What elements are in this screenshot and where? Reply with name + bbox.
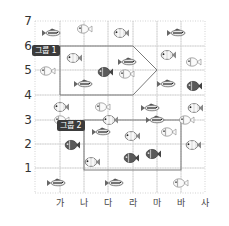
x-label-sa: 사 (197, 198, 213, 208)
y-label-4: 4 (21, 89, 35, 101)
diagram-stage: 7 6 5 4 3 2 1 가 나 다 라 마 바 사 그룹 1 그룹 2 (0, 0, 229, 226)
x-label-ga: 가 (52, 198, 68, 208)
fish-perch (92, 128, 110, 136)
x-label-ba: 바 (173, 198, 189, 208)
x-label-da: 다 (100, 198, 116, 208)
fish-clownfish-outline (120, 70, 135, 78)
fish-clownfish-outline (162, 128, 177, 136)
fish-clownfish-light (125, 132, 140, 141)
x-label-ma: 마 (149, 198, 165, 208)
group-2-tag: 그룹 2 (57, 120, 85, 131)
diagram-panel: 7 6 5 4 3 2 1 가 나 다 라 마 바 사 그룹 1 그룹 2 (0, 0, 229, 226)
fish-clownfish-outline (187, 58, 202, 66)
fish-clownfish-light (161, 51, 176, 60)
fish-perch (146, 116, 164, 124)
y-label-5: 5 (21, 64, 35, 76)
fish-perch (74, 80, 92, 88)
fish-layer (41, 25, 204, 187)
y-label-2: 2 (21, 138, 35, 150)
fish-clownfish-dark (98, 67, 113, 76)
fish-clownfish-light (103, 116, 118, 125)
x-label-na: 나 (76, 198, 92, 208)
fish-perch (141, 104, 159, 112)
fish-clownfish-outline (78, 25, 93, 33)
fish-clownfish-dark (124, 153, 139, 162)
fish-clownfish-dark (65, 140, 80, 149)
fish-clownfish-light (114, 29, 129, 38)
grid-svg (0, 0, 229, 226)
fish-clownfish-light (188, 104, 203, 113)
y-label-3: 3 (21, 114, 35, 126)
fish-perch (42, 29, 60, 37)
fish-perch (167, 29, 185, 37)
fish-clownfish-dark (187, 81, 202, 90)
fish-perch (47, 179, 65, 187)
y-label-7: 7 (21, 15, 35, 27)
fish-clownfish-light (67, 54, 82, 63)
fish-clownfish-light (85, 158, 100, 167)
fish-clownfish-light (54, 103, 69, 112)
fish-clownfish-outline (180, 116, 195, 124)
fish-clownfish-outline (41, 67, 56, 75)
fish-clownfish-light (186, 141, 201, 150)
fish-clownfish-dark (146, 149, 161, 158)
x-label-ra: 라 (125, 198, 141, 208)
y-label-1: 1 (21, 162, 35, 174)
fish-clownfish-outline (174, 179, 189, 187)
group-1-tag: 그룹 1 (32, 45, 60, 56)
fish-perch (157, 80, 175, 88)
